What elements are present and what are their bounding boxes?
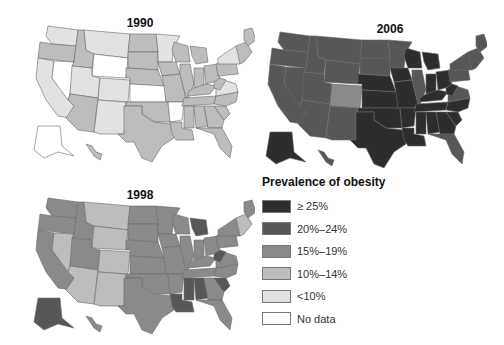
legend: Prevalence of obesity ≥ 25% 20%–24% 15%–… xyxy=(262,175,385,330)
us-map-1998 xyxy=(30,194,255,334)
state-ar xyxy=(168,102,184,122)
state-az xyxy=(66,94,98,132)
state-sd xyxy=(128,224,158,242)
state-nd xyxy=(128,34,158,52)
state-ar xyxy=(168,274,184,294)
state-wy xyxy=(324,60,360,84)
state-sd xyxy=(128,52,158,70)
state-ia xyxy=(158,62,180,76)
legend-item: 20%–24% xyxy=(262,218,385,241)
legend-item: No data xyxy=(262,308,385,331)
legend-item: 15%–19% xyxy=(262,240,385,263)
state-wa xyxy=(278,32,310,52)
state-wi xyxy=(404,48,422,68)
state-wi xyxy=(172,42,190,62)
state-mi xyxy=(422,52,440,70)
legend-item: ≥ 25% xyxy=(262,195,385,218)
state-wa xyxy=(46,26,78,46)
state-ms xyxy=(184,106,194,128)
state-ak xyxy=(34,298,74,330)
state-nm xyxy=(326,106,358,140)
state-wy xyxy=(92,54,128,78)
state-fl xyxy=(196,128,232,158)
legend-label: No data xyxy=(297,313,336,325)
state-ia xyxy=(158,234,180,248)
state-az xyxy=(66,266,98,304)
state-ne xyxy=(358,74,396,92)
state-ia xyxy=(390,68,412,82)
legend-swatch xyxy=(262,290,291,303)
state-hi xyxy=(318,150,334,166)
state-nm xyxy=(94,272,126,306)
legend-title: Prevalence of obesity xyxy=(262,175,385,189)
state-nm xyxy=(94,100,126,134)
state-fl xyxy=(196,300,232,330)
legend-item: 10%–14% xyxy=(262,263,385,286)
state-hi xyxy=(86,144,102,160)
state-ar xyxy=(400,108,416,128)
state-ms xyxy=(184,278,194,300)
state-fl xyxy=(428,134,464,164)
state-ks xyxy=(130,256,166,274)
state-az xyxy=(298,100,330,138)
legend-label: ≥ 25% xyxy=(297,200,328,212)
state-co xyxy=(98,250,130,274)
state-ak xyxy=(34,126,74,158)
legend-label: 20%–24% xyxy=(297,223,347,235)
state-ms xyxy=(416,112,426,134)
state-nd xyxy=(128,206,158,224)
state-ks xyxy=(130,84,166,102)
state-wa xyxy=(46,198,78,218)
state-co xyxy=(330,84,362,108)
legend-swatch xyxy=(262,267,291,280)
state-sd xyxy=(360,58,390,76)
legend-label: 15%–19% xyxy=(297,245,347,257)
state-ks xyxy=(362,90,398,108)
us-map-2006 xyxy=(262,28,487,168)
legend-label: 10%–14% xyxy=(297,268,347,280)
state-ak xyxy=(266,132,306,164)
legend-swatch xyxy=(262,222,291,235)
state-ne xyxy=(126,240,164,258)
state-mi xyxy=(190,218,208,236)
legend-item: <10% xyxy=(262,285,385,308)
state-mi xyxy=(190,46,208,64)
legend-label: <10% xyxy=(297,290,325,302)
state-wi xyxy=(172,214,190,234)
state-co xyxy=(98,78,130,102)
legend-swatch xyxy=(262,312,291,325)
us-map-1990 xyxy=(30,22,255,162)
state-wy xyxy=(92,226,128,250)
legend-swatch xyxy=(262,200,291,213)
state-nd xyxy=(360,40,390,58)
state-hi xyxy=(86,316,102,332)
state-ne xyxy=(126,68,164,86)
legend-swatch xyxy=(262,245,291,258)
